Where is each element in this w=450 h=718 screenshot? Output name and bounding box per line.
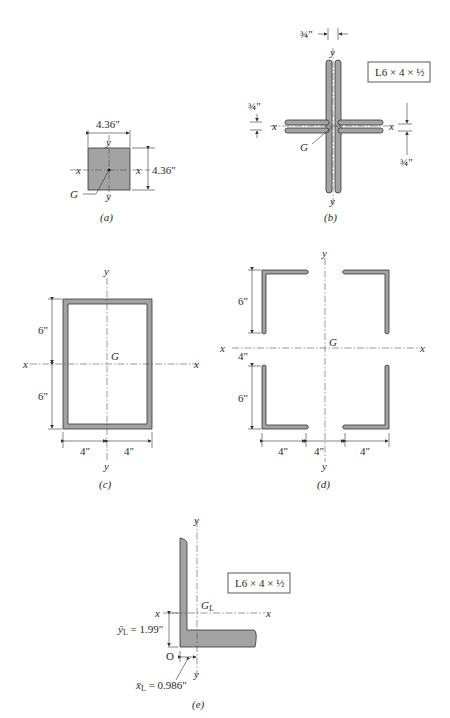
caption-e: (e) <box>192 698 205 711</box>
section-label: L6 × 4 × ½ <box>375 66 424 78</box>
svg-text:y: y <box>321 247 327 259</box>
svg-text:y: y <box>329 46 335 58</box>
upper-height-label: 6" <box>238 295 248 307</box>
caption-a: (a) <box>100 211 113 224</box>
gap-height-label: 4" <box>238 350 248 362</box>
svg-text:x: x <box>419 342 425 354</box>
figure-canvas: 4.36" 4.36" x x y y G (a) y y x x <box>0 0 450 718</box>
left-width-label: 4" <box>278 445 288 457</box>
caption-b: (b) <box>324 211 337 224</box>
centroid-label: G <box>300 141 308 153</box>
svg-text:x: x <box>219 342 225 354</box>
svg-text:y: y <box>329 195 335 207</box>
thickness-top-label: ¾" <box>300 28 313 40</box>
x-label-right: x <box>135 164 141 176</box>
height-label: 4.36" <box>152 164 176 176</box>
origin-label: O <box>166 650 174 662</box>
gap-width-label: 4" <box>314 445 324 457</box>
svg-text:y: y <box>103 460 109 472</box>
lower-height-label: 6" <box>238 392 248 404</box>
section-label: L6 × 4 × ½ <box>235 577 284 589</box>
panel-e: y y x x GL L6 × 4 × ½ ȳL = 1.99" O x̄L =… <box>117 514 290 711</box>
centroid-label: G <box>70 188 78 200</box>
svg-text:y: y <box>321 460 327 472</box>
xbar-label: x̄L = 0.986" <box>135 679 187 693</box>
x-label-left: x <box>75 164 81 176</box>
svg-text:x: x <box>154 607 160 619</box>
centroid-label: G <box>111 350 119 362</box>
right-width-label: 4" <box>360 445 370 457</box>
panel-d: y y x x G 6" 4" 6" 4" 4" 4" (d) <box>219 247 425 491</box>
caption-c: (c) <box>99 478 112 491</box>
centroid-label: G <box>329 336 337 348</box>
panel-b: y y x x ¾" L6 × 4 × ½ ¾" ¾" G (b) <box>248 28 430 224</box>
thickness-left-label: ¾" <box>248 100 261 112</box>
thickness-right-label: ¾" <box>400 156 413 168</box>
ybar-label: ȳL = 1.99" <box>117 623 163 637</box>
centroid-label: GL <box>201 599 214 613</box>
y-label-top: y <box>105 136 111 148</box>
svg-text:x: x <box>193 358 199 370</box>
svg-text:x: x <box>388 120 394 132</box>
svg-text:x: x <box>265 607 271 619</box>
panel-c: y y x x G 6" 6" 4" 4" (c) <box>22 265 199 491</box>
left-width-label: 4" <box>80 445 90 457</box>
right-width-label: 4" <box>124 445 134 457</box>
width-label: 4.36" <box>96 118 120 130</box>
lower-height-label: 6" <box>38 390 48 402</box>
svg-text:y: y <box>103 265 109 277</box>
svg-text:y: y <box>193 668 199 680</box>
caption-d: (d) <box>317 478 330 491</box>
svg-text:x: x <box>22 358 28 370</box>
panel-a: 4.36" 4.36" x x y y G (a) <box>70 118 176 224</box>
upper-height-label: 6" <box>38 324 48 336</box>
svg-text:x: x <box>271 120 277 132</box>
y-label-bottom: y <box>105 190 111 202</box>
svg-text:y: y <box>193 514 199 526</box>
